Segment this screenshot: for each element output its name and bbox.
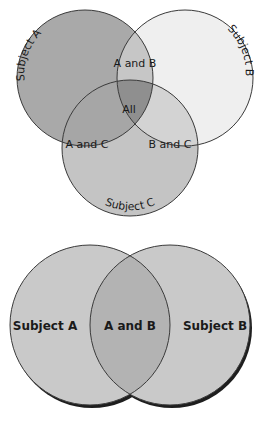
label-a-and-b: A and B <box>104 319 156 333</box>
label-a-and-c: A and C <box>66 138 109 151</box>
label-a-and-b: A and B <box>114 57 157 70</box>
label-subject-b: Subject B <box>183 319 247 333</box>
venn-three-sets: Subject A Subject B Subject C A and B A … <box>14 10 256 216</box>
venn-two-sets: Subject A A and B Subject B <box>10 245 252 408</box>
label-subject-a: Subject A <box>13 319 78 333</box>
label-b-and-c: B and C <box>149 138 192 151</box>
label-all: All <box>122 103 136 116</box>
venn-diagrams-canvas: Subject A Subject B Subject C A and B A … <box>0 0 271 432</box>
